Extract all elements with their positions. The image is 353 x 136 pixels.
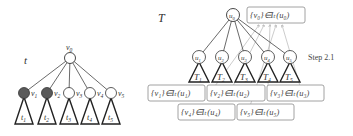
left-child-v1: v1 t1 xyxy=(15,88,38,125)
left-child-v5: v5 t5 xyxy=(102,88,125,125)
mapping-boxes-row1: {v₁}∈Iₜ(u₁) {v₂}∈Iₜ(u₂) {v₃}∈Iₜ(u₃) xyxy=(148,85,324,101)
svg-text:{v₂}∈Iₜ(u₂): {v₂}∈Iₜ(u₂) xyxy=(210,88,249,98)
svg-text:{v₅}∈Iₜ(u₅): {v₅}∈Iₜ(u₅) xyxy=(240,107,279,117)
step-label: Step 2.1 xyxy=(308,53,334,62)
left-child-v4: v4 t4 xyxy=(81,88,104,125)
tree-mapping-diagram: t v0 v1 t1 v2 t2 v3 t3 xyxy=(0,0,353,136)
svg-text:{v₄}∈Iₜ(u₄): {v₄}∈Iₜ(u₄) xyxy=(181,107,220,117)
right-tree: T u0 {v₀}∈Iₜ(u₀) u1 T1 xyxy=(148,7,334,120)
mapping-boxes-row2: {v₄}∈Iₜ(u₄) {v₅}∈Iₜ(u₅) xyxy=(178,104,294,120)
svg-text:v1: v1 xyxy=(31,89,38,99)
left-tree-title: t xyxy=(24,54,28,66)
right-child-u1: u1 T1 xyxy=(189,51,209,84)
left-tree: t v0 v1 t1 v2 t2 v3 t3 xyxy=(15,43,125,124)
right-tree-title: T xyxy=(158,11,166,25)
svg-text:{v₃}∈Iₜ(u₃): {v₃}∈Iₜ(u₃) xyxy=(270,88,309,98)
svg-text:v5: v5 xyxy=(118,89,125,99)
right-child-u5: u5 T5 xyxy=(280,51,300,84)
svg-text:{v₀}∈Iₜ(u₀): {v₀}∈Iₜ(u₀) xyxy=(250,10,289,20)
root-label-v0: v0 xyxy=(66,43,73,53)
left-child-v3: v3 t3 xyxy=(60,88,83,125)
left-child-v2: v2 t2 xyxy=(38,88,61,125)
right-child-u4: u4 T4 xyxy=(258,51,278,84)
right-child-u3: u3 T3 xyxy=(235,51,255,84)
svg-text:v4: v4 xyxy=(97,89,104,99)
root-node-v0 xyxy=(65,53,76,64)
svg-text:v2: v2 xyxy=(54,89,61,99)
svg-text:v3: v3 xyxy=(76,89,83,99)
svg-text:{v₁}∈Iₜ(u₁): {v₁}∈Iₜ(u₁) xyxy=(151,88,190,98)
root-mapping-box: {v₀}∈Iₜ(u₀) xyxy=(247,7,305,23)
